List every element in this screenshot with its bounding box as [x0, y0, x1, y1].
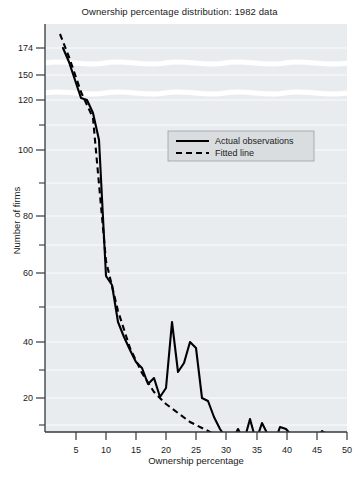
x-tick-label: 40 [282, 445, 292, 455]
x-tick-label: 45 [312, 445, 322, 455]
y-tick-label: 40 [23, 337, 33, 347]
y-axis-ticks [36, 48, 45, 425]
y-tick-label: 120 [18, 95, 33, 105]
y-tick-label: 60 [23, 268, 33, 278]
x-tick-label: 30 [221, 445, 231, 455]
y-tick-label: 100 [18, 145, 33, 155]
x-axis-title: Ownership percentage [45, 455, 347, 466]
x-axis-ticks [76, 432, 347, 440]
y-tick-label: 20 [23, 393, 33, 403]
plot-canvas: 174 150 120 100 80 60 40 20 5 10 15 2 [0, 0, 359, 479]
x-tick-label: 20 [161, 445, 171, 455]
chart-legend: Actual observations Fitted line [168, 131, 314, 161]
y-axis-title: Number of firms [11, 161, 22, 281]
legend-label-actual-observations: Actual observations [215, 136, 294, 146]
y-tick-label: 80 [23, 211, 33, 221]
x-tick-label: 50 [342, 445, 352, 455]
y-tick-label: 150 [18, 70, 33, 80]
y-tick-label: 174 [18, 43, 33, 53]
x-tick-label: 15 [131, 445, 141, 455]
plot-background [45, 24, 347, 432]
x-tick-label: 5 [73, 445, 78, 455]
x-tick-label: 10 [101, 445, 111, 455]
chart-figure: Ownership percentage distribution: 1982 … [0, 0, 359, 479]
x-tick-label: 35 [252, 445, 262, 455]
legend-label-fitted-line: Fitted line [215, 148, 254, 158]
x-tick-label: 25 [191, 445, 201, 455]
x-axis-tick-labels: 5 10 15 20 25 30 35 40 45 50 [73, 445, 352, 455]
